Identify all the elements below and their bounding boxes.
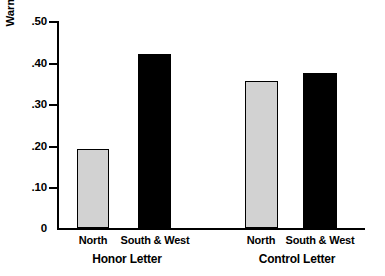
- x-cat-label-control-south-west: South & West: [281, 234, 359, 247]
- y-tick-030: [49, 104, 59, 106]
- y-tick-label-000: 0: [7, 223, 47, 234]
- bar-control-north: [245, 81, 278, 228]
- y-axis-line: [57, 21, 59, 230]
- x-axis-line: [57, 228, 365, 230]
- y-tick-label-010: .10: [7, 182, 47, 193]
- y-tick-label-050: .50: [7, 16, 47, 27]
- bar-control-south-west: [303, 73, 337, 228]
- x-cat-label-honor-south-west: South & West: [116, 234, 194, 247]
- x-cat-label-honor-north: North: [65, 234, 121, 247]
- y-tick-label-040: .40: [7, 58, 47, 69]
- x-group-label-control-letter: Control Letter: [234, 252, 360, 266]
- y-tick-label-020: .20: [7, 141, 47, 152]
- y-tick-040: [49, 63, 59, 65]
- bar-honor-north: [77, 149, 109, 228]
- y-tick-010: [49, 187, 59, 189]
- bar-honor-south-west: [138, 54, 171, 228]
- y-tick-020: [49, 146, 59, 148]
- y-tick-050: [49, 21, 59, 23]
- x-group-label-honor-letter: Honor Letter: [66, 252, 188, 266]
- bar-chart: Warmth of Response to Letter .50 .40 .30…: [0, 0, 385, 276]
- y-tick-label-030: .30: [7, 99, 47, 110]
